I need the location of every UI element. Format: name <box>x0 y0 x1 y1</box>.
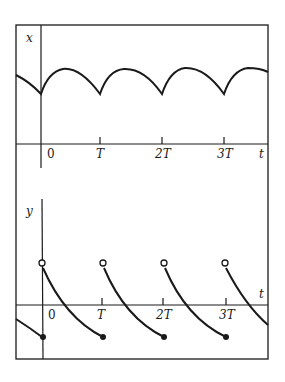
upper-tick-label-2T: 2T <box>154 147 172 161</box>
lower-tick-label-3T: 3T <box>219 308 236 322</box>
figure: x 0 T 2T 3T t y <box>0 0 285 382</box>
open-circles <box>39 260 228 266</box>
upper-tick-label-0: 0 <box>47 147 55 161</box>
upper-tick-label-T: T <box>96 147 105 161</box>
upper-x-label: t <box>259 147 264 161</box>
filled-dots <box>40 334 229 340</box>
upper-plot: x 0 T 2T 3T t <box>16 25 268 168</box>
upper-tick-label-3T: 3T <box>217 147 234 161</box>
x-curve <box>16 68 268 94</box>
y-curve-segments <box>16 268 268 337</box>
lower-x-label: t <box>259 287 264 301</box>
upper-y-label: x <box>26 31 33 45</box>
lower-y-label: y <box>25 204 33 218</box>
lower-tick-label-2T: 2T <box>155 308 173 322</box>
lower-plot: y 0 T 2T 3T t <box>16 199 268 359</box>
lower-tick-label-0: 0 <box>48 308 56 322</box>
lower-tick-label-T: T <box>97 308 106 322</box>
